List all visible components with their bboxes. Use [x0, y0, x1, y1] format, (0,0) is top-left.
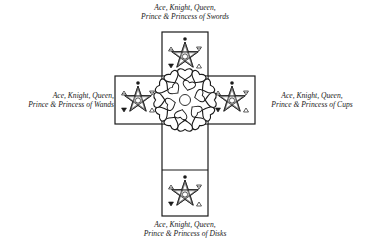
pentagram-icon-swords — [169, 37, 202, 68]
cross-diagram — [0, 0, 367, 252]
pentagram-icon-wands — [122, 81, 155, 112]
pentagram-icon-disks — [169, 175, 202, 206]
pentagram-icon-cups — [216, 81, 249, 112]
